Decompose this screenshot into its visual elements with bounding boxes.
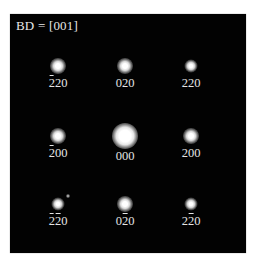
diffraction-pattern-frame: BD = [001] 220020220200000200220020220 xyxy=(10,14,246,253)
diffraction-spot-200 xyxy=(183,128,199,144)
diffraction-spot-020 xyxy=(117,58,133,74)
stray-reflection-dot xyxy=(66,194,70,198)
beam-direction-label: BD = [001] xyxy=(16,18,78,34)
diffraction-spot-000 xyxy=(112,123,138,149)
miller-index-label-220: 220 xyxy=(182,76,201,90)
diffraction-spot-m220 xyxy=(50,58,66,74)
miller-index-label-m200: 200 xyxy=(49,146,68,160)
diffraction-spot-m200 xyxy=(50,128,66,144)
diffraction-spot-m2m20 xyxy=(52,198,65,211)
miller-index-label-2m20: 220 xyxy=(182,214,201,228)
miller-index-label-200: 200 xyxy=(182,146,201,160)
diffraction-spot-2m20 xyxy=(185,198,198,211)
diffraction-spot-220 xyxy=(185,60,198,73)
miller-index-label-020: 020 xyxy=(116,76,135,90)
miller-index-label-m220: 220 xyxy=(49,76,68,90)
miller-index-label-000: 000 xyxy=(116,149,135,163)
diffraction-spot-0m20 xyxy=(117,196,133,212)
miller-index-label-m2m20: 220 xyxy=(49,214,68,228)
miller-index-label-0m20: 020 xyxy=(116,214,135,228)
